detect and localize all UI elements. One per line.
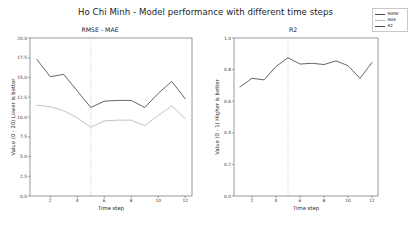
x-tick-label: 6: [103, 198, 106, 203]
y-tick-label: 2.5: [20, 174, 27, 179]
series-line-rmse: [37, 59, 186, 107]
x-tick-label: 4: [76, 198, 79, 203]
plot-area-rmse-mae: 0.02.55.07.510.012.515.017.520.024681012…: [0, 24, 200, 233]
x-tick-label: 4: [275, 198, 278, 203]
y-tick-label: 0.8: [224, 67, 231, 72]
panel-rmse-mae: RMSE - MAE 0.02.55.07.510.012.515.017.52…: [0, 24, 200, 233]
y-tick-label: 15.0: [17, 75, 27, 80]
legend: RMSEMAER2: [372, 8, 408, 32]
legend-item-label: R2: [388, 23, 393, 29]
x-tick-label: 12: [182, 198, 188, 203]
plot-area-r2: 0.00.20.40.60.81.024681012Time stepValue…: [200, 24, 386, 233]
y-tick-label: 5.0: [20, 154, 27, 159]
y-axis-label: Value (0 - 20) Lower is better: [10, 78, 16, 156]
y-tick-label: 1.0: [224, 36, 231, 41]
x-tick-label: 10: [155, 198, 161, 203]
panel-r2: R2 0.00.20.40.60.81.024681012Time stepVa…: [200, 24, 386, 233]
axes-frame: [30, 38, 192, 196]
x-tick-label: 6: [299, 198, 302, 203]
legend-item[interactable]: R2: [375, 23, 405, 29]
y-tick-label: 20.0: [17, 36, 27, 41]
series-line-r2: [240, 58, 372, 87]
y-tick-label: 0.6: [224, 99, 231, 104]
x-axis-label: Time step: [97, 205, 125, 212]
y-tick-label: 12.5: [17, 95, 27, 100]
y-tick-label: 0.4: [224, 130, 231, 135]
legend-line-icon: [375, 20, 385, 21]
x-tick-label: 2: [49, 198, 52, 203]
series-line-mae: [37, 105, 186, 127]
axes-frame: [234, 38, 378, 196]
y-tick-label: 0.0: [20, 194, 27, 199]
y-tick-label: 7.5: [20, 134, 27, 139]
y-tick-label: 17.5: [17, 55, 27, 60]
y-tick-label: 10.0: [17, 115, 27, 120]
legend-line-icon: [375, 14, 385, 15]
x-tick-label: 10: [345, 198, 351, 203]
legend-line-icon: [375, 26, 385, 27]
x-axis-label: Time step: [292, 205, 320, 212]
x-tick-label: 8: [130, 198, 133, 203]
y-axis-label: Value (0 - 1) Higher is better: [214, 78, 221, 154]
x-tick-label: 12: [369, 198, 375, 203]
x-tick-label: 8: [323, 198, 326, 203]
figure-root: Ho Chi Minh - Model performance with dif…: [0, 0, 411, 251]
y-tick-label: 0.2: [224, 162, 231, 167]
figure-title: Ho Chi Minh - Model performance with dif…: [0, 7, 411, 17]
y-tick-label: 0.0: [224, 194, 231, 199]
x-tick-label: 2: [251, 198, 254, 203]
